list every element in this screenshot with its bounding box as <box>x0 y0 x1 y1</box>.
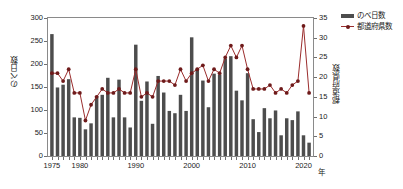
bar <box>274 110 277 156</box>
bar <box>307 143 310 156</box>
line-marker <box>262 87 266 91</box>
left-tick-label: 150 <box>18 83 43 91</box>
line-marker <box>173 83 177 87</box>
bar <box>173 113 176 156</box>
x-tickmark <box>69 157 70 160</box>
x-tickmark <box>141 157 142 160</box>
right-tickmark <box>314 38 317 39</box>
x-tickmark <box>130 157 131 160</box>
left-tick-label: 50 <box>18 129 43 137</box>
x-tickmark <box>136 157 137 160</box>
bar <box>201 81 204 156</box>
bar <box>78 118 81 156</box>
right-tick-label: 35 <box>319 14 337 22</box>
bar <box>50 34 53 156</box>
line-marker <box>72 91 76 95</box>
x-tickmark <box>125 157 126 160</box>
x-tickmark <box>175 157 176 160</box>
legend-item-bar: のべ日数 <box>341 10 392 21</box>
line-marker <box>145 91 149 95</box>
x-tickmark <box>253 157 254 160</box>
bar <box>61 85 64 156</box>
x-tickmark <box>298 157 299 160</box>
line-marker <box>207 79 211 83</box>
right-tick-label: 15 <box>319 93 337 101</box>
line-marker <box>134 67 138 71</box>
line-marker <box>290 83 294 87</box>
line-marker <box>123 91 127 95</box>
line-marker <box>201 63 205 67</box>
bar <box>240 100 243 156</box>
bar <box>56 87 59 156</box>
line-marker <box>67 67 71 71</box>
bar-swatch-icon <box>341 14 354 18</box>
x-tickmark <box>236 157 237 160</box>
line-marker <box>117 87 121 91</box>
bar <box>101 95 104 156</box>
bar <box>207 107 210 156</box>
bar <box>296 111 299 156</box>
x-tickmark <box>304 157 305 160</box>
x-tick-label: 1975 <box>39 162 65 170</box>
line-marker <box>184 79 188 83</box>
left-tick-label: 200 <box>18 60 43 68</box>
line-marker <box>167 79 171 83</box>
x-tickmark <box>63 157 64 160</box>
bar <box>67 79 70 156</box>
left-tick-label: 300 <box>18 14 43 22</box>
bar <box>162 93 165 156</box>
x-tickmark <box>203 157 204 160</box>
line-marker <box>279 87 283 91</box>
line-marker <box>218 71 222 75</box>
bar <box>95 96 98 156</box>
line-marker <box>50 71 54 75</box>
x-tickmark <box>158 157 159 160</box>
right-tick-label: 5 <box>319 132 337 140</box>
chart-container: のべ日数 都道府県数 年 050100150200250300 05101520… <box>0 0 403 189</box>
x-tickmark <box>248 157 249 160</box>
right-tick-label: 0 <box>319 152 337 160</box>
x-tickmark <box>153 157 154 160</box>
bar <box>218 75 221 156</box>
line-marker <box>84 119 88 123</box>
x-tickmark <box>259 157 260 160</box>
line-marker <box>251 87 255 91</box>
bar <box>123 117 126 156</box>
x-tickmark <box>169 157 170 160</box>
bar <box>156 76 159 156</box>
legend-label-bar: のべ日数 <box>357 10 385 21</box>
x-tickmark <box>231 157 232 160</box>
x-tickmark <box>102 157 103 160</box>
x-tickmark <box>86 157 87 160</box>
bar <box>302 135 305 156</box>
line-marker <box>162 79 166 83</box>
bar <box>128 127 131 156</box>
x-tickmark <box>276 157 277 160</box>
bar <box>117 80 120 156</box>
chart-legend: のべ日数 都道府県数 <box>341 10 392 32</box>
bar <box>112 117 115 156</box>
x-tickmark <box>119 157 120 160</box>
line-marker <box>179 67 183 71</box>
right-tickmark <box>314 57 317 58</box>
bar <box>196 69 199 156</box>
line-marker <box>296 79 300 83</box>
line-marker <box>151 95 155 99</box>
x-tick-label: 2020 <box>291 162 317 170</box>
bar <box>84 129 87 156</box>
bar <box>285 118 288 156</box>
x-tickmark <box>264 157 265 160</box>
bar <box>235 91 238 156</box>
x-tickmark <box>242 157 243 160</box>
bar <box>257 132 260 156</box>
x-tickmark <box>74 157 75 160</box>
right-tick-label: 10 <box>319 113 337 121</box>
bar <box>229 56 232 156</box>
x-tickmark <box>292 157 293 160</box>
bar <box>263 108 266 156</box>
x-tickmark <box>309 157 310 160</box>
line-marker <box>268 83 272 87</box>
x-tickmark <box>164 157 165 160</box>
x-tickmark <box>80 157 81 160</box>
bar <box>140 101 143 156</box>
